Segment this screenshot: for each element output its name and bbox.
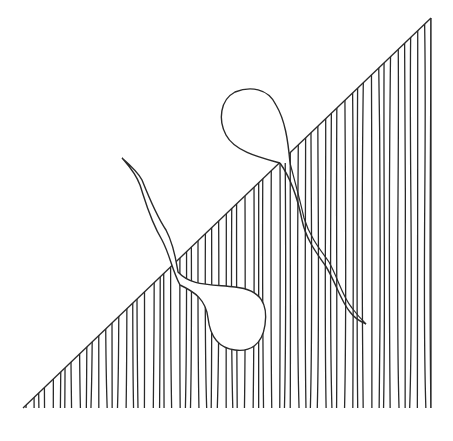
hatch-line — [205, 10, 207, 408]
hatch-line — [53, 10, 54, 408]
hatch-line — [297, 10, 299, 408]
upper-right-tail-inner — [290, 163, 366, 324]
hatch-line — [404, 10, 405, 408]
hatch-line — [164, 10, 166, 408]
hatch-line — [132, 10, 133, 408]
hatch-line — [105, 10, 107, 408]
hatch-line — [398, 10, 399, 408]
hatch-line — [126, 10, 127, 408]
hatch-line — [179, 10, 180, 408]
hatch-line — [144, 10, 145, 408]
hatch-line — [170, 10, 172, 408]
lower-left-teardrop — [122, 158, 266, 350]
hatch-line — [79, 10, 80, 408]
hatch-line — [112, 10, 113, 408]
hatch-line — [284, 10, 285, 408]
hatch-line — [91, 10, 93, 408]
hatch-line — [351, 10, 353, 408]
hatch-line — [44, 10, 46, 408]
hatch-line — [330, 10, 331, 408]
hatch-line — [263, 10, 265, 408]
hatch-line — [305, 10, 306, 408]
hatch-line — [198, 10, 199, 408]
hatch-line — [424, 10, 426, 408]
hatch-line — [65, 10, 66, 408]
hatch-line — [290, 10, 291, 408]
hatch-line — [410, 10, 412, 408]
hatch-line — [190, 10, 191, 408]
hatch-line — [33, 10, 35, 408]
hatch-line — [357, 10, 358, 408]
hatch-line — [371, 10, 372, 408]
hatch-line — [337, 10, 339, 408]
hatch-line — [325, 10, 326, 408]
drawing-canvas: Line drawing: right triangle with vertic… — [0, 0, 453, 441]
upper-right-loop — [221, 89, 290, 163]
hatch-line — [278, 10, 280, 408]
hatch-line — [159, 10, 160, 408]
hatch-line — [345, 10, 346, 408]
hatch-line — [185, 10, 186, 408]
hatch-line — [252, 10, 254, 408]
hatch-line — [378, 10, 380, 408]
hatch-line — [310, 10, 311, 408]
hatch-line — [362, 10, 364, 408]
hatch-line — [384, 10, 385, 408]
hatch-line — [137, 10, 139, 408]
hatch-line — [317, 10, 318, 408]
hatch-line — [217, 10, 219, 408]
triangle-hypotenuse — [23, 18, 431, 408]
hatch-line — [71, 10, 73, 408]
hatch-line — [211, 10, 212, 408]
hatch-line — [59, 10, 61, 408]
line-drawing — [0, 0, 453, 441]
hatch-line — [271, 10, 272, 408]
hatch-line — [389, 10, 391, 408]
hatch-line — [26, 10, 27, 408]
hatch-line — [117, 10, 118, 408]
hatch-line — [38, 10, 39, 408]
